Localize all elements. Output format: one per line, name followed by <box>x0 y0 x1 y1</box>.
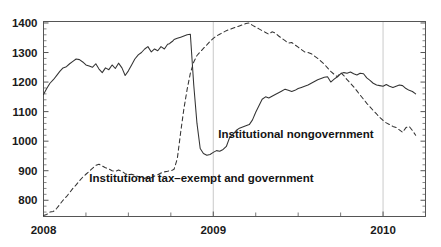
institutional-nongovernment-label: Institutional nongovernment <box>218 128 373 140</box>
line-chart: 80090010001100120013001400 200820092010 … <box>0 0 441 247</box>
y-tick-label-1300: 1300 <box>12 47 38 59</box>
chart-background <box>0 0 441 247</box>
chart-container: 80090010001100120013001400 200820092010 … <box>0 0 441 247</box>
y-tick-label-1400: 1400 <box>12 17 38 29</box>
institutional-tax-exempt-and-government-label: Institutional tax–exempt and government <box>89 172 313 184</box>
y-tick-label-1200: 1200 <box>12 76 38 88</box>
y-tick-label-1000: 1000 <box>12 135 38 147</box>
x-tick-label-2009: 2009 <box>200 224 226 236</box>
y-tick-label-900: 900 <box>18 165 37 177</box>
y-tick-label-1100: 1100 <box>13 106 38 118</box>
x-tick-label-2010: 2010 <box>370 224 396 236</box>
x-tick-label-2008: 2008 <box>31 224 57 236</box>
y-tick-label-800: 800 <box>18 194 37 206</box>
